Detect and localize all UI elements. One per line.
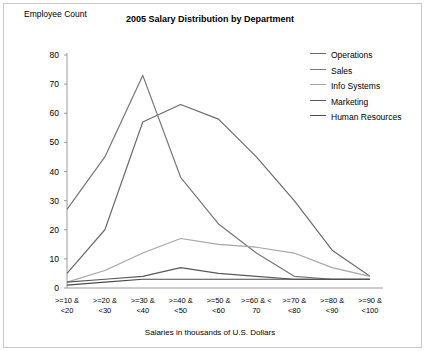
y-tick-label: 0 [37,283,59,293]
legend-item-label: Marketing [331,96,368,106]
legend-line-swatch [310,84,326,85]
y-tick-label: 60 [37,108,59,118]
y-tick-label: 80 [37,50,59,60]
legend-line-swatch [310,53,326,54]
y-tick-label: 40 [37,167,59,177]
x-tick-label: >=90 &<100 [346,296,394,315]
legend-item-marketing[interactable]: Marketing [310,95,368,107]
x-tick-label-line: >=90 & [346,296,394,306]
legend-item-label: Sales [331,65,352,75]
y-tick-label: 10 [37,254,59,264]
series-line-marketing [67,268,370,283]
legend-line-swatch [310,100,326,101]
y-tick-label: 20 [37,225,59,235]
legend-line-swatch [310,115,326,116]
legend-item-label: Info Systems [331,81,380,91]
y-tick-label: 30 [37,196,59,206]
legend-item-label: Human Resources [331,112,401,122]
y-tick-label: 70 [37,79,59,89]
legend-item-info-systems[interactable]: Info Systems [310,79,380,91]
y-tick-label: 50 [37,137,59,147]
chart-screenshot: Employee Count 2005 Salary Distribution … [0,0,425,351]
legend-item-label: Operations [331,50,373,60]
x-tick-label-line: <100 [346,306,394,316]
x-axis-title: Salaries in thousands of U.S. Dollars [60,328,360,337]
legend-line-swatch [310,69,326,70]
legend-item-sales[interactable]: Sales [310,64,352,76]
series-line-human-resources [67,279,370,285]
series-line-operations [67,105,370,277]
legend-item-operations[interactable]: Operations [310,48,373,60]
legend-item-human-resources[interactable]: Human Resources [310,110,401,122]
series-line-info-systems [67,238,370,282]
